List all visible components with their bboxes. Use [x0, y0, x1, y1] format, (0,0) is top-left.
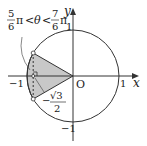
origin-label: O	[76, 78, 85, 91]
svg-text:√3: √3	[50, 90, 63, 101]
svg-text:<: <	[25, 14, 34, 27]
neg-sqrt3-over-2-label: − √3 2	[42, 90, 66, 114]
svg-text:7: 7	[52, 8, 58, 19]
condition-label: 5 6 π < θ < 7 6 π	[7, 8, 67, 32]
svg-text:2: 2	[54, 103, 60, 114]
svg-text:6: 6	[8, 21, 14, 32]
svg-text:<: <	[42, 14, 51, 27]
tick-x-neg: −1	[9, 78, 24, 89]
endpoint-lower	[31, 97, 35, 101]
y-axis-arrow-icon	[70, 8, 76, 15]
tick-y-pos: 1	[66, 21, 72, 32]
svg-text:π: π	[16, 14, 23, 27]
point-neg-sqrt3	[32, 75, 35, 78]
tick-x-pos: 1	[120, 78, 126, 89]
y-axis-label: y	[63, 4, 71, 18]
svg-text:5: 5	[8, 8, 14, 19]
x-axis-label: x	[133, 76, 140, 90]
endpoint-upper	[31, 51, 35, 55]
tick-y-neg: −1	[61, 123, 76, 134]
svg-text:θ: θ	[34, 14, 41, 27]
unit-circle-diagram: 5 6 π < θ < 7 6 π y x O 1 1 −1 −1 − √3 2	[0, 0, 147, 146]
svg-text:6: 6	[52, 21, 58, 32]
